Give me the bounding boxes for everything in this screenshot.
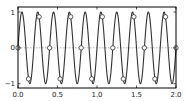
sample-marker <box>90 77 94 81</box>
y-tick-label: 0 <box>11 44 15 52</box>
x-tick-label: 0.5 <box>52 91 63 99</box>
sample-marker <box>142 46 146 50</box>
sample-marker <box>153 77 157 81</box>
sample-marker <box>163 15 167 19</box>
plot-area <box>16 12 178 84</box>
sample-marker <box>132 15 136 19</box>
axes: 0.00.51.01.52.0−101 <box>5 7 182 99</box>
sample-marker <box>47 46 51 50</box>
x-tick-label: 1.5 <box>131 91 142 99</box>
x-tick-label: 2.0 <box>170 91 181 99</box>
sample-marker <box>100 15 104 19</box>
sample-marker <box>121 77 125 81</box>
x-tick-label: 0.0 <box>12 91 23 99</box>
y-tick-label: 1 <box>11 9 15 17</box>
signal-line <box>18 12 176 84</box>
sample-marker <box>58 77 62 81</box>
x-tick-label: 1.0 <box>91 91 102 99</box>
sample-marker <box>111 46 115 50</box>
sample-marker <box>68 15 72 19</box>
sample-marker <box>37 15 41 19</box>
sample-marker <box>79 46 83 50</box>
sample-marker <box>26 77 30 81</box>
chart: 0.00.51.01.52.0−101 <box>0 0 186 101</box>
y-tick-label: −1 <box>5 80 15 88</box>
